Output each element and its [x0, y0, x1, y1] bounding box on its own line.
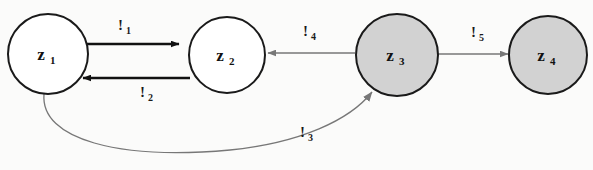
node-z4-subscript: 4 — [550, 55, 556, 67]
node-z1-subscript: 1 — [50, 54, 56, 66]
node-z4[interactable]: z 4 — [509, 16, 587, 94]
edge-label-3: ! — [300, 124, 305, 140]
edge-transition-3[interactable]: ! 3 — [44, 92, 372, 153]
edge-label-2: ! — [140, 84, 145, 100]
diagram-canvas: ! 1 ! 2 ! 3 ! 4 ! 5 z — [0, 0, 593, 170]
edge-transition-1[interactable]: ! 1 — [87, 17, 179, 44]
edge-label-3-subscript: 3 — [308, 132, 313, 143]
node-z4-circle — [509, 16, 587, 94]
node-z1-label: z — [37, 45, 45, 64]
edge-label-5: ! — [471, 24, 476, 40]
node-z3[interactable]: z 3 — [356, 14, 438, 96]
edge-transition-4[interactable]: ! 4 — [268, 23, 355, 53]
edge-curve-3 — [44, 92, 372, 153]
node-z4-label: z — [537, 46, 545, 65]
edge-transition-2[interactable]: ! 2 — [83, 78, 190, 103]
edge-label-5-subscript: 5 — [479, 32, 484, 43]
edge-label-4: ! — [303, 23, 308, 39]
edge-label-2-subscript: 2 — [148, 92, 153, 103]
state-transition-diagram: ! 1 ! 2 ! 3 ! 4 ! 5 z — [0, 0, 593, 170]
node-z2-label: z — [216, 46, 224, 65]
edge-label-4-subscript: 4 — [311, 31, 316, 42]
node-z2[interactable]: z 2 — [189, 17, 265, 93]
node-z1[interactable]: z 1 — [8, 14, 88, 94]
edge-label-1: ! — [118, 17, 123, 33]
edge-label-1-subscript: 1 — [126, 25, 131, 36]
node-z3-subscript: 3 — [399, 55, 405, 67]
node-z3-circle — [356, 14, 438, 96]
node-z2-circle — [189, 17, 265, 93]
node-z2-subscript: 2 — [229, 55, 235, 67]
edge-transition-5[interactable]: ! 5 — [438, 24, 508, 54]
node-z1-circle — [8, 14, 88, 94]
node-z3-label: z — [386, 46, 394, 65]
